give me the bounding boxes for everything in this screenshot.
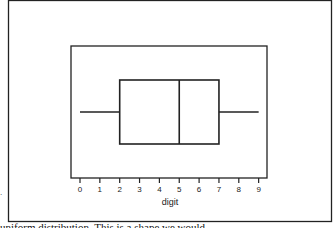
- x-axis-label: digit: [162, 197, 179, 207]
- x-tick-label: 2: [117, 185, 122, 194]
- x-tick-label: 1: [98, 185, 103, 194]
- box-and-whisker: [80, 80, 259, 144]
- x-tick-label: 7: [217, 185, 222, 194]
- x-axis: 0123456789: [78, 178, 262, 194]
- outer-frame: [9, 1, 332, 222]
- x-tick-label: 4: [157, 185, 162, 194]
- x-tick-label: 9: [256, 185, 261, 194]
- box-plot-figure: 0123456789 digit: [0, 0, 333, 228]
- x-tick-label: 8: [237, 185, 242, 194]
- iqr-box: [120, 80, 219, 144]
- x-tick-label: 0: [78, 185, 83, 194]
- x-tick-label: 3: [137, 185, 142, 194]
- caption-text: uniform distribution. This is a shape we…: [0, 222, 333, 228]
- x-tick-label: 6: [197, 185, 202, 194]
- margin-marker: .: [0, 188, 2, 197]
- x-tick-label: 5: [177, 185, 182, 194]
